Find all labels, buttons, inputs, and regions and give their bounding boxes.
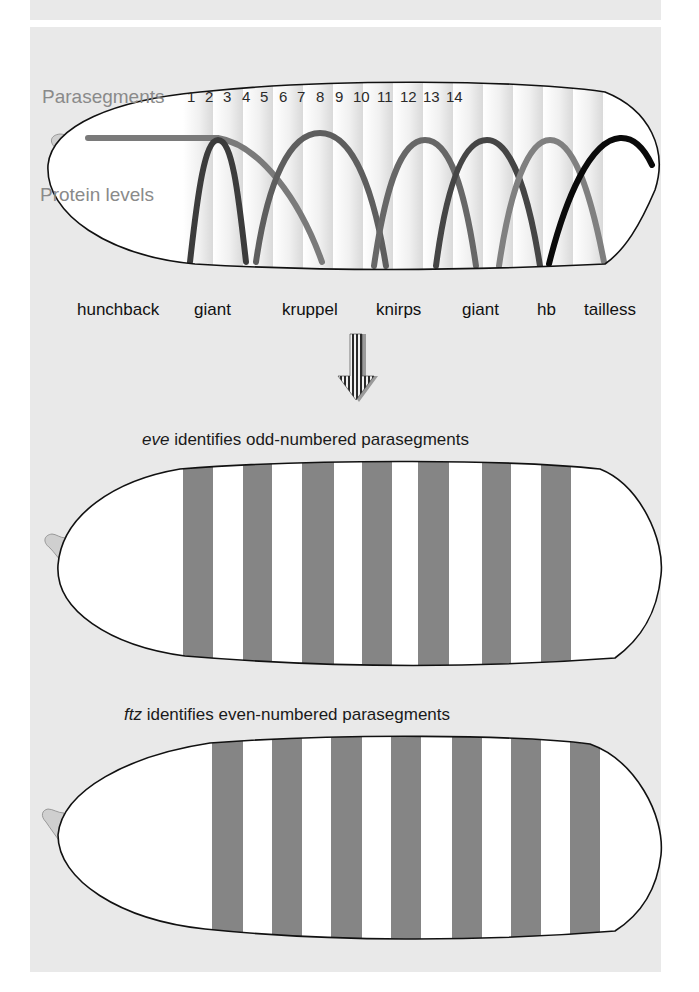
parasegment-number: 3 — [223, 88, 231, 105]
eve-caption: eve identifies odd-numbered parasegments — [142, 430, 469, 450]
parasegment-number: 4 — [242, 88, 250, 105]
parasegment-number: 11 — [377, 88, 393, 105]
gene-label-kruppel: kruppel — [282, 300, 338, 320]
ftz-stripe — [570, 720, 600, 960]
eve-stripe — [362, 440, 392, 680]
eve-caption-text: identifies odd-numbered parasegments — [169, 430, 469, 449]
ftz-stripe — [391, 720, 421, 960]
parasegments-axis-label: Parasegments — [42, 86, 165, 108]
parasegment-number: 6 — [279, 88, 287, 105]
parasegment-number: 9 — [335, 88, 343, 105]
parasegment-number: 12 — [400, 88, 417, 105]
gene-label-knirps: knirps — [376, 300, 421, 320]
gene-label-giant-posterior: giant — [462, 300, 499, 320]
ftz-stripe — [331, 720, 362, 960]
eve-stripe — [418, 440, 449, 680]
gene-label-tailless: tailless — [584, 300, 636, 320]
eve-embryo — [45, 440, 662, 680]
parasegment-number: 5 — [260, 88, 268, 105]
eve-stripe — [302, 440, 334, 680]
ftz-caption-text: identifies even-numbered parasegments — [142, 705, 450, 724]
eve-stripe — [183, 440, 213, 680]
parasegment-number: 8 — [316, 88, 324, 105]
eve-gene-name: eve — [142, 430, 169, 449]
ftz-stripe — [212, 720, 243, 960]
ftz-stripe — [452, 720, 482, 960]
ftz-caption: ftz identifies even-numbered parasegment… — [124, 705, 450, 725]
ftz-embryo — [42, 720, 661, 960]
parasegment-number: 13 — [423, 88, 440, 105]
down-arrow-icon — [338, 334, 378, 402]
parasegment-number: 7 — [297, 88, 305, 105]
ftz-stripe — [272, 720, 302, 960]
gene-label-hb: hb — [537, 300, 556, 320]
ftz-stripe — [511, 720, 541, 960]
gene-label-hunchback: hunchback — [77, 300, 159, 320]
parasegment-number: 2 — [205, 88, 213, 105]
ftz-gene-name: ftz — [124, 705, 142, 724]
eve-stripe — [541, 440, 571, 680]
eve-stripe — [482, 440, 511, 680]
parasegment-number: 1 — [187, 88, 195, 105]
figure-graphics — [0, 0, 699, 992]
eve-stripe — [243, 440, 272, 680]
parasegment-number: 10 — [353, 88, 370, 105]
protein-levels-axis-label: Protein levels — [40, 184, 154, 206]
parasegment-number: 14 — [446, 88, 463, 105]
gene-label-giant: giant — [194, 300, 231, 320]
